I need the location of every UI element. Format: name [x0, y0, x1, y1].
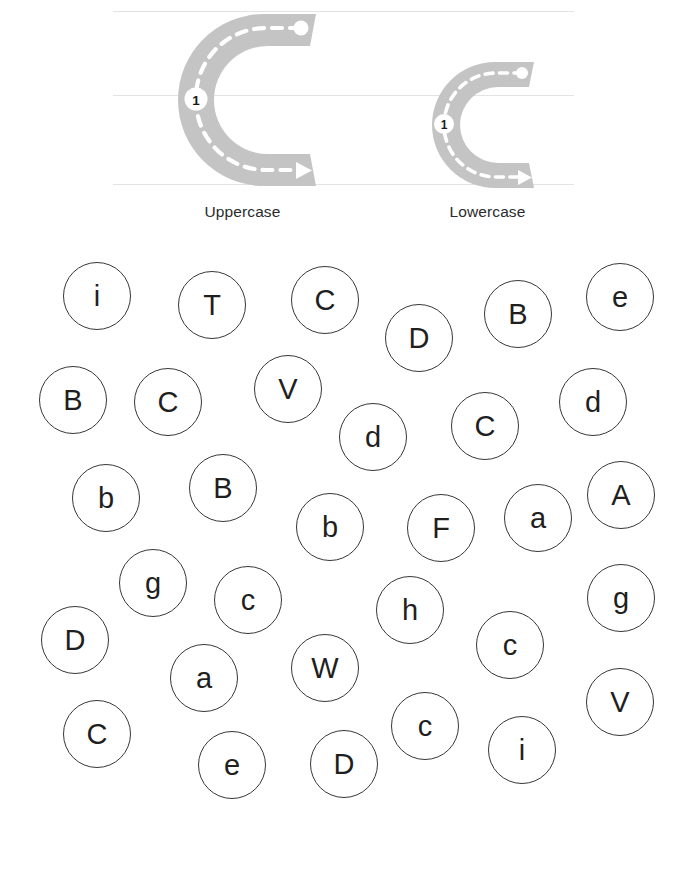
- letter-bubble-label: C: [158, 388, 179, 417]
- letter-bubble-label: F: [432, 514, 450, 543]
- letter-bubble[interactable]: B: [189, 454, 257, 522]
- tracing-guide-area: 1 1 Uppercase Lowercase: [0, 0, 700, 230]
- letter-bubble[interactable]: D: [310, 730, 378, 798]
- letter-bubble-label: a: [530, 504, 546, 533]
- letter-bubble-label: e: [224, 751, 240, 780]
- letter-bubble-label: D: [334, 750, 355, 779]
- letter-bubble-label: c: [418, 712, 433, 741]
- letter-bubble-label: V: [610, 688, 629, 717]
- letter-bubble[interactable]: B: [39, 366, 107, 434]
- letter-bubble[interactable]: e: [586, 263, 654, 331]
- letter-bubble[interactable]: C: [63, 700, 131, 768]
- letter-bubble[interactable]: V: [254, 355, 322, 423]
- letter-bubble[interactable]: i: [488, 716, 556, 784]
- letter-bubble[interactable]: b: [72, 464, 140, 532]
- stroke-start-dot: [516, 67, 528, 79]
- letter-bubble-label: a: [196, 664, 212, 693]
- stroke-order-number: 1: [441, 118, 448, 132]
- letter-bubble[interactable]: b: [296, 493, 364, 561]
- letter-bubble[interactable]: C: [291, 266, 359, 334]
- letter-bubble-label: d: [365, 423, 381, 452]
- stroke-start-dot: [294, 21, 309, 36]
- letter-bubble-label: D: [65, 626, 86, 655]
- letter-bubble-label: g: [613, 584, 629, 613]
- letter-bubble-label: T: [203, 291, 221, 320]
- letter-bubble-label: c: [503, 631, 518, 660]
- letter-bubble[interactable]: D: [41, 606, 109, 674]
- uppercase-c-trace-glyph: 1: [150, 2, 335, 197]
- letter-bubble-label: B: [508, 300, 527, 329]
- letter-bubble-label: d: [585, 388, 601, 417]
- lowercase-caption: Lowercase: [400, 203, 575, 221]
- letter-bubble-label: A: [611, 481, 630, 510]
- letter-bubble[interactable]: V: [586, 668, 654, 736]
- stroke-order-number: 1: [192, 93, 200, 108]
- letter-bubble-label: D: [409, 324, 430, 353]
- uppercase-caption: Uppercase: [150, 203, 335, 221]
- letter-bubble[interactable]: a: [504, 484, 572, 552]
- letter-bubble[interactable]: d: [559, 368, 627, 436]
- letter-bubble[interactable]: c: [476, 611, 544, 679]
- letter-bubble-label: g: [145, 569, 161, 598]
- letter-bubble[interactable]: h: [376, 576, 444, 644]
- letter-bubble-label: C: [315, 286, 336, 315]
- letter-bubble[interactable]: g: [119, 549, 187, 617]
- letter-bubble-label: C: [87, 720, 108, 749]
- letter-bubble[interactable]: D: [385, 304, 453, 372]
- letter-bubble-label: b: [98, 484, 114, 513]
- lowercase-c-trace-glyph: 1: [410, 48, 550, 198]
- letter-bubble-label: e: [612, 283, 628, 312]
- letter-bubble[interactable]: e: [198, 731, 266, 799]
- letter-bubble-label: C: [475, 412, 496, 441]
- letter-bubble-field: iTCDBeBCVdCdbBbFaAgchcgDaWCciVeD: [0, 230, 700, 840]
- letter-bubble-label: c: [241, 586, 256, 615]
- worksheet-page: 1 1 Uppercase Lowercase iTCDBeBCVdCdbBbF…: [0, 0, 700, 875]
- letter-bubble-label: W: [311, 654, 338, 683]
- letter-bubble-label: b: [322, 513, 338, 542]
- letter-bubble[interactable]: c: [391, 692, 459, 760]
- letter-bubble-label: B: [63, 386, 82, 415]
- letter-bubble[interactable]: C: [451, 392, 519, 460]
- letter-bubble-label: B: [213, 474, 232, 503]
- letter-bubble[interactable]: B: [484, 280, 552, 348]
- letter-bubble[interactable]: c: [214, 566, 282, 634]
- letter-bubble[interactable]: C: [134, 368, 202, 436]
- letter-bubble-label: h: [402, 596, 418, 625]
- letter-bubble-label: i: [94, 282, 100, 311]
- letter-bubble[interactable]: a: [170, 644, 238, 712]
- letter-bubble[interactable]: g: [587, 564, 655, 632]
- letter-bubble[interactable]: W: [291, 634, 359, 702]
- letter-bubble-label: V: [278, 375, 297, 404]
- letter-bubble[interactable]: i: [63, 262, 131, 330]
- letter-bubble[interactable]: T: [178, 271, 246, 339]
- letter-bubble[interactable]: F: [407, 494, 475, 562]
- letter-bubble[interactable]: A: [587, 461, 655, 529]
- letter-bubble-label: i: [519, 736, 525, 765]
- letter-bubble[interactable]: d: [339, 403, 407, 471]
